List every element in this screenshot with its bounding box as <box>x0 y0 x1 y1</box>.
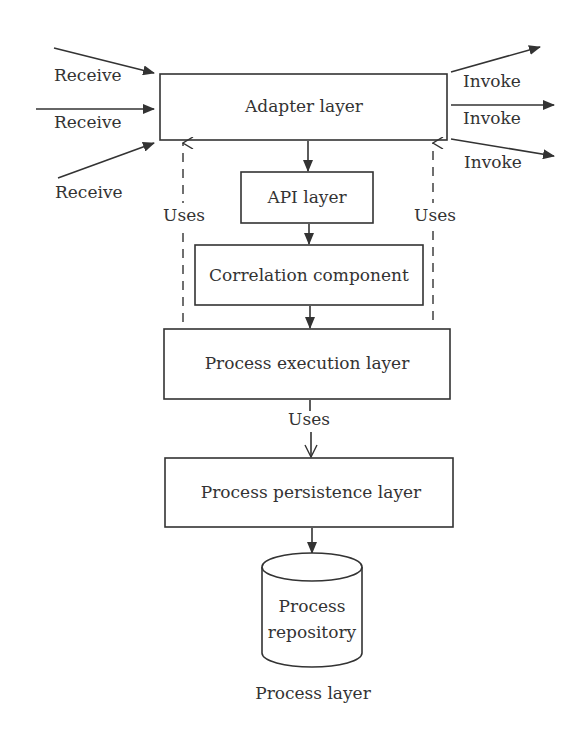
diagram-caption: Process layer <box>255 683 371 703</box>
invoke-arrows <box>451 47 554 156</box>
invoke-arrow-1 <box>451 47 540 72</box>
receive-label-3: Receive <box>55 182 123 202</box>
uses-label-left: Uses <box>163 205 205 225</box>
cylinder-top <box>262 553 362 581</box>
uses-label-bottom: Uses <box>288 409 330 429</box>
repository-label-line2: repository <box>268 622 357 642</box>
receive-label-1: Receive <box>54 65 122 85</box>
process-execution-layer-label: Process execution layer <box>205 353 411 373</box>
adapter-layer-label: Adapter layer <box>244 96 364 116</box>
invoke-label-3: Invoke <box>464 152 522 172</box>
cylinder-body <box>262 567 362 667</box>
repository-label-line1: Process <box>279 596 346 616</box>
architecture-diagram: Receive Receive Receive Invoke Invoke In… <box>0 0 583 739</box>
receive-arrow-3 <box>58 143 154 178</box>
process-persistence-layer-label: Process persistence layer <box>201 482 422 502</box>
invoke-label-1: Invoke <box>463 71 521 91</box>
api-layer-label: API layer <box>266 187 347 207</box>
invoke-label-2: Invoke <box>463 108 521 128</box>
receive-label-2: Receive <box>54 112 122 132</box>
correlation-component-label: Correlation component <box>209 265 409 285</box>
uses-label-right: Uses <box>414 205 456 225</box>
